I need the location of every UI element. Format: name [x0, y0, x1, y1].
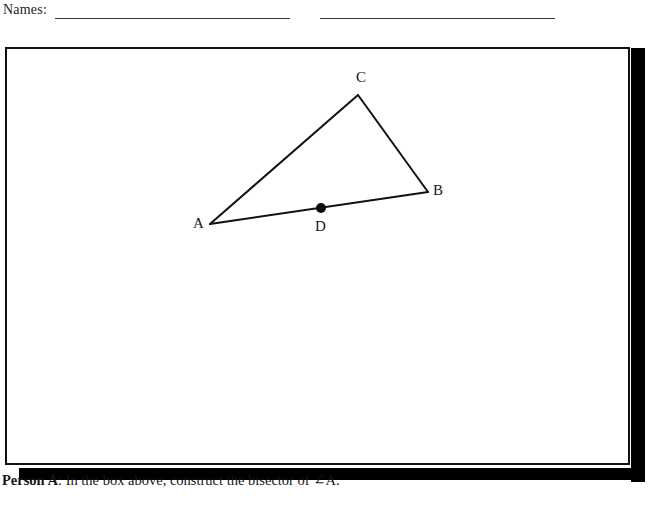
- second-name-blank[interactable]: [320, 18, 555, 19]
- box-shadow-right: [631, 48, 645, 482]
- construction-area: A B C D: [0, 22, 658, 462]
- prompt-instruction: In the box above, construct the bisector…: [62, 472, 340, 488]
- prompt-text: Person A: In the box above, construct th…: [2, 470, 340, 490]
- names-row: Names:: [0, 0, 658, 24]
- names-label: Names:: [3, 1, 47, 19]
- prompt-person-label: Person A: [2, 472, 58, 488]
- first-name-blank[interactable]: [55, 18, 290, 19]
- prompt-row: Person A: In the box above, construct th…: [0, 470, 658, 496]
- construction-box[interactable]: [5, 47, 630, 465]
